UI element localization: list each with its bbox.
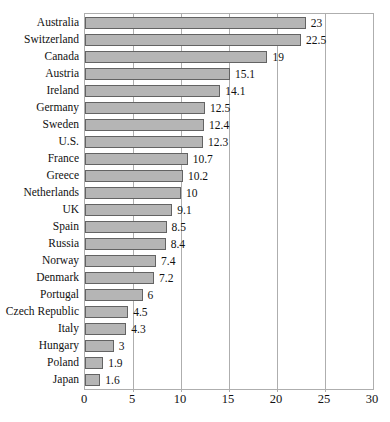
- bar: [85, 221, 167, 233]
- bar: [85, 51, 267, 63]
- plot-area: 2322.51915.114.112.512.412.310.710.2109.…: [84, 13, 374, 390]
- bar: [85, 187, 181, 199]
- value-label: 23: [311, 14, 323, 31]
- bar: [85, 136, 203, 148]
- x-axis-tick-labels: 051015202530: [0, 392, 390, 410]
- value-label: 1.9: [108, 355, 122, 372]
- grid-line: [277, 14, 278, 392]
- value-label: 14.1: [225, 82, 245, 99]
- value-label: 7.4: [161, 253, 175, 270]
- bar: [85, 119, 204, 131]
- category-label: Poland: [0, 354, 79, 371]
- category-label: Australia: [0, 13, 79, 30]
- category-label: Canada: [0, 47, 79, 64]
- category-label: Norway: [0, 252, 79, 269]
- value-label: 12.4: [209, 116, 229, 133]
- x-tick-label: 30: [366, 392, 379, 407]
- bar: [85, 357, 103, 369]
- x-tick-label: 25: [318, 392, 331, 407]
- category-label: Netherlands: [0, 183, 79, 200]
- value-label: 4.3: [131, 321, 145, 338]
- category-label: Japan: [0, 371, 79, 388]
- value-label: 8.5: [172, 219, 186, 236]
- bar: [85, 170, 183, 182]
- category-label: Russia: [0, 235, 79, 252]
- bar: [85, 102, 205, 114]
- bar: [85, 34, 301, 46]
- category-label: UK: [0, 201, 79, 218]
- bar: [85, 289, 143, 301]
- value-label: 8.4: [171, 236, 185, 253]
- bar: [85, 323, 126, 335]
- category-label: Austria: [0, 64, 79, 81]
- bar: [85, 68, 230, 80]
- value-label: 1.6: [105, 372, 119, 389]
- category-label: Portugal: [0, 286, 79, 303]
- value-label: 19: [272, 48, 284, 65]
- value-label: 12.5: [210, 99, 230, 116]
- category-label: Italy: [0, 320, 79, 337]
- value-label: 6: [148, 287, 154, 304]
- value-label: 10: [186, 184, 198, 201]
- value-label: 10.7: [193, 150, 213, 167]
- category-label: Germany: [0, 98, 79, 115]
- value-label: 9.1: [177, 202, 191, 219]
- value-label: 4.5: [133, 304, 147, 321]
- value-label: 3: [119, 338, 125, 355]
- category-label: U.S.: [0, 132, 79, 149]
- bar: [85, 153, 188, 165]
- bar: [85, 238, 166, 250]
- bar: [85, 340, 114, 352]
- bar: [85, 255, 156, 267]
- bar: [85, 306, 128, 318]
- category-label: Greece: [0, 166, 79, 183]
- category-label: Czech Republic: [0, 303, 79, 320]
- bar: [85, 272, 154, 284]
- bar: [85, 85, 220, 97]
- category-label: Ireland: [0, 81, 79, 98]
- value-label: 10.2: [188, 167, 208, 184]
- category-label: Switzerland: [0, 30, 79, 47]
- value-label: 15.1: [235, 65, 255, 82]
- x-tick-label: 15: [222, 392, 235, 407]
- bar-chart: AustraliaSwitzerlandCanadaAustriaIreland…: [0, 0, 390, 422]
- bar: [85, 374, 100, 386]
- bar: [85, 204, 172, 216]
- category-label: France: [0, 149, 79, 166]
- x-tick-label: 10: [174, 392, 187, 407]
- bar: [85, 17, 306, 29]
- value-label: 12.3: [208, 133, 228, 150]
- value-label: 22.5: [306, 31, 326, 48]
- x-tick-label: 20: [270, 392, 283, 407]
- category-axis-labels: AustraliaSwitzerlandCanadaAustriaIreland…: [0, 13, 79, 388]
- value-label: 7.2: [159, 270, 173, 287]
- x-tick-label: 5: [129, 392, 135, 407]
- category-label: Sweden: [0, 115, 79, 132]
- category-label: Denmark: [0, 269, 79, 286]
- x-tick-label: 0: [81, 392, 87, 407]
- category-label: Spain: [0, 218, 79, 235]
- category-label: Hungary: [0, 337, 79, 354]
- grid-line: [325, 14, 326, 392]
